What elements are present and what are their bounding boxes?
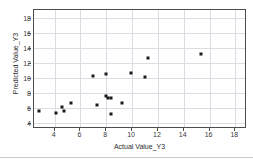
x-tick-mark bbox=[234, 128, 235, 131]
gridline-horizontal bbox=[34, 18, 245, 19]
gridline-horizontal bbox=[34, 63, 245, 64]
x-tick-label: 12 bbox=[149, 131, 165, 138]
y-tick-mark bbox=[28, 78, 31, 79]
data-point bbox=[92, 75, 95, 78]
gridline-vertical bbox=[235, 10, 236, 127]
y-tick-mark bbox=[28, 123, 31, 124]
gridline-vertical bbox=[132, 10, 133, 127]
bottom-divider bbox=[0, 157, 253, 158]
x-tick-label: 4 bbox=[46, 131, 62, 138]
data-point bbox=[61, 106, 64, 109]
data-point bbox=[199, 52, 202, 55]
gridline-vertical bbox=[55, 10, 56, 127]
gridline-horizontal bbox=[34, 78, 245, 79]
data-point bbox=[54, 111, 57, 114]
y-tick-mark bbox=[28, 63, 31, 64]
y-tick-mark bbox=[28, 93, 31, 94]
x-axis-ticks: 4681012141618 bbox=[33, 131, 246, 141]
x-tick-mark bbox=[131, 128, 132, 131]
x-tick-label: 14 bbox=[175, 131, 191, 138]
gridline-horizontal bbox=[34, 108, 245, 109]
x-tick-label: 10 bbox=[123, 131, 139, 138]
data-point bbox=[146, 56, 149, 59]
gridline-vertical bbox=[210, 10, 211, 127]
x-tick-mark bbox=[79, 128, 80, 131]
x-tick-mark bbox=[183, 128, 184, 131]
gridline-horizontal bbox=[34, 48, 245, 49]
data-point bbox=[109, 97, 112, 100]
data-point bbox=[129, 71, 132, 74]
data-point bbox=[105, 73, 108, 76]
data-point bbox=[70, 101, 73, 104]
x-tick-mark bbox=[54, 128, 55, 131]
x-tick-label: 8 bbox=[97, 131, 113, 138]
gridline-horizontal bbox=[34, 123, 245, 124]
x-tick-label: 18 bbox=[226, 131, 242, 138]
x-tick-label: 6 bbox=[71, 131, 87, 138]
x-tick-mark bbox=[105, 128, 106, 131]
data-point bbox=[62, 109, 65, 112]
data-point bbox=[110, 113, 113, 116]
scatter-chart: 4681012141618 4681012141618 Actual Value… bbox=[0, 0, 253, 165]
y-axis-title: Predicted Value_Y3 bbox=[12, 4, 19, 123]
gridline-vertical bbox=[106, 10, 107, 127]
data-point bbox=[144, 76, 147, 79]
y-tick-mark bbox=[28, 18, 31, 19]
gridline-horizontal bbox=[34, 93, 245, 94]
x-axis-title: Actual Value_Y3 bbox=[33, 143, 246, 150]
gridline-vertical bbox=[158, 10, 159, 127]
gridline-vertical bbox=[80, 10, 81, 127]
data-point bbox=[96, 103, 99, 106]
gridline-horizontal bbox=[34, 33, 245, 34]
x-tick-mark bbox=[209, 128, 210, 131]
x-tick-mark bbox=[157, 128, 158, 131]
data-point bbox=[121, 101, 124, 104]
y-tick-mark bbox=[28, 108, 31, 109]
gridline-vertical bbox=[184, 10, 185, 127]
y-tick-mark bbox=[28, 48, 31, 49]
data-point bbox=[38, 109, 41, 112]
y-tick-mark bbox=[28, 33, 31, 34]
plot-area bbox=[33, 9, 246, 128]
x-tick-label: 16 bbox=[201, 131, 217, 138]
